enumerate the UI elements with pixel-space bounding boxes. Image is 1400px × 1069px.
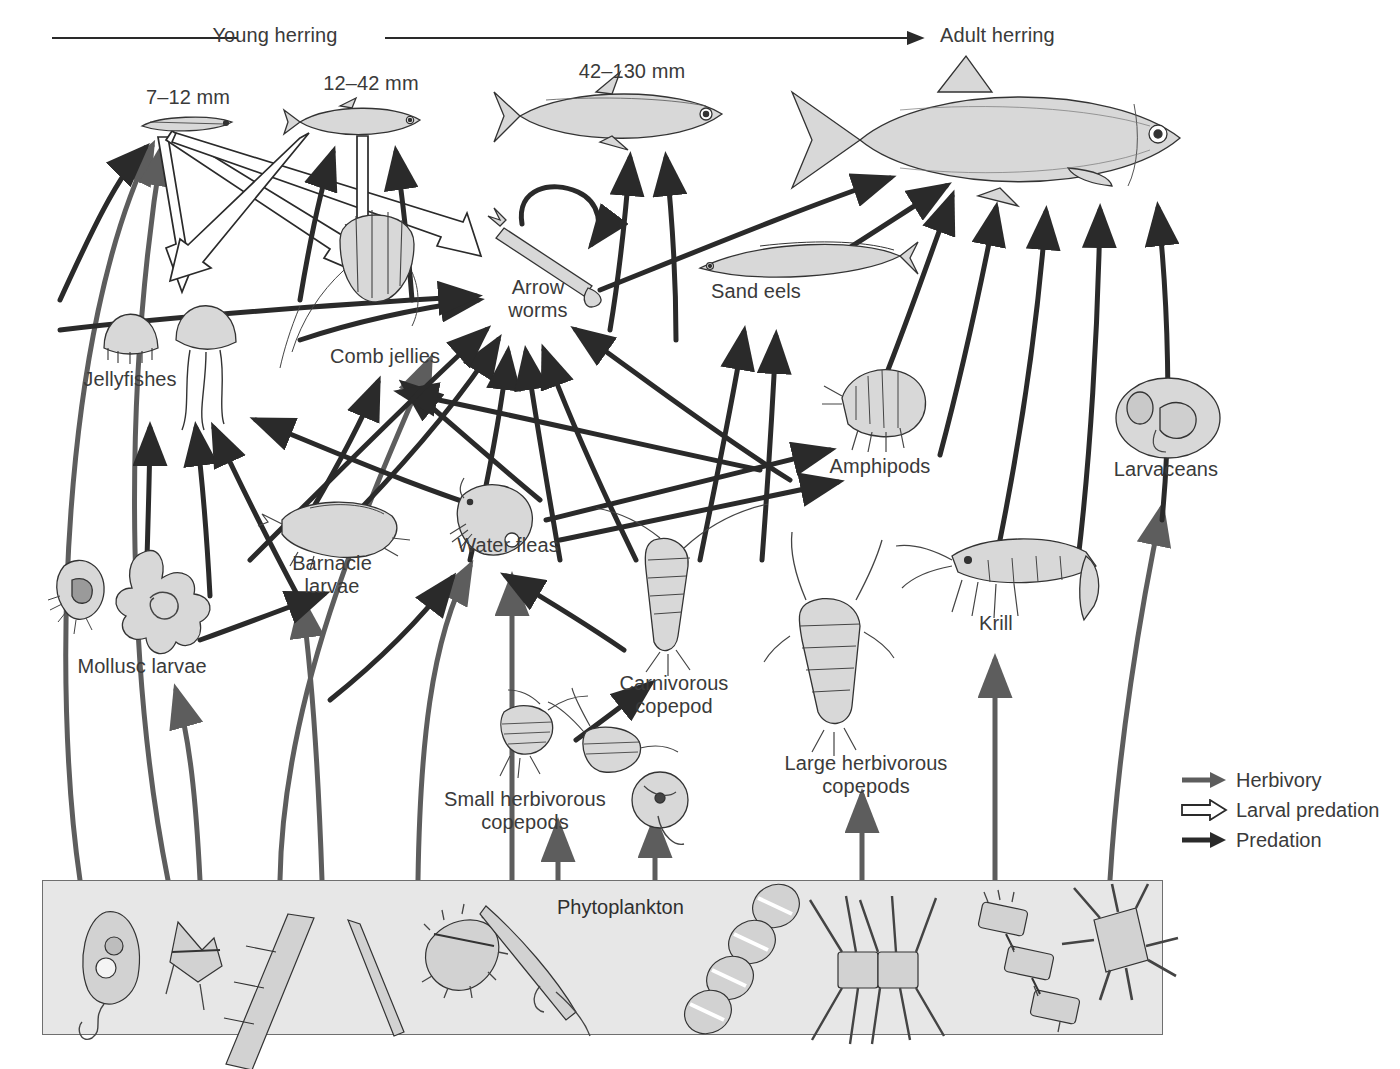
phyto-star-diatom (1062, 884, 1178, 1000)
stage-label-42-130mm: 42–130 mm (579, 60, 686, 83)
phyto-flagellate (79, 912, 139, 1040)
herbivory-arrow-icon (1180, 769, 1228, 791)
legend-label-larval-predation: Larval predation (1236, 799, 1379, 822)
phyto-dinoflagellate-horned (166, 922, 222, 1010)
node-label-larvaceans: Larvaceans (1114, 458, 1218, 481)
phyto-chain-diatom-rod (224, 914, 314, 1069)
legend-item-herbivory: Herbivory (1180, 765, 1390, 795)
node-label-water-fleas: Water fleas (457, 534, 559, 557)
node-label-barnacle-larvae: Barnaclelarvae (292, 552, 372, 598)
legend: Herbivory Larval predation Predation (1180, 765, 1390, 855)
axis-label-adult-herring: Adult herring (940, 24, 1055, 47)
legend-item-larval-predation: Larval predation (1180, 795, 1390, 825)
node-label-small-herbivorous-copepods: Small herbivorouscopepods (444, 788, 606, 834)
legend-item-predation: Predation (1180, 825, 1390, 855)
node-label-mollusc-larvae: Mollusc larvae (77, 655, 206, 678)
legend-label-predation: Predation (1236, 829, 1322, 852)
axis-label-young-herring: Young herring (212, 24, 337, 47)
node-label-krill: Krill (979, 612, 1013, 635)
node-label-jellyfishes: Jellyfishes (83, 368, 176, 391)
node-label-carnivorous-copepod: Carnivorouscopepod (620, 672, 729, 718)
phytoplankton-organism-layer (0, 0, 1400, 1069)
node-label-phytoplankton: Phytoplankton (557, 896, 684, 919)
larval-predation-arrow-icon (1180, 799, 1228, 821)
phyto-skeletonema (978, 890, 1080, 1032)
node-label-large-herbivorous-copepods: Large herbivorouscopepods (785, 752, 948, 798)
phyto-ceratium (480, 906, 590, 1036)
node-label-amphipods: Amphipods (830, 455, 931, 478)
food-web-diagram: Young herring Adult herring 7–12 mm 12–4… (0, 0, 1400, 1069)
node-label-sand-eels: Sand eels (711, 280, 801, 303)
predation-arrow-icon (1180, 829, 1228, 851)
node-label-comb-jellies: Comb jellies (330, 345, 440, 368)
phyto-chaetoceros (810, 896, 944, 1044)
phyto-chain-spherical (677, 876, 807, 1042)
stage-label-12-42mm: 12–42 mm (323, 72, 418, 95)
node-label-arrow-worms: Arrowworms (508, 276, 567, 322)
stage-label-7-12mm: 7–12 mm (146, 86, 230, 109)
legend-label-herbivory: Herbivory (1236, 769, 1322, 792)
phyto-needle-diatom (348, 920, 404, 1036)
